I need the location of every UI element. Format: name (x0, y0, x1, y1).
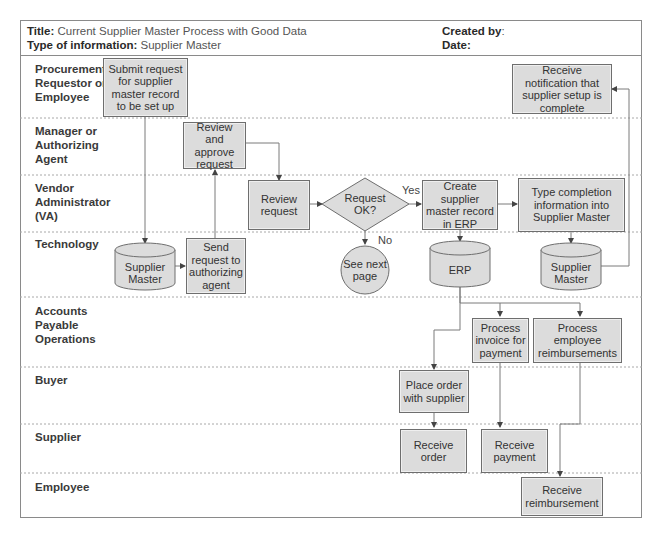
lane-technology: Technology (35, 237, 99, 251)
edge-label-yes: Yes (402, 184, 420, 196)
lane-vendor-admin: Vendor Administrator (VA) (35, 181, 110, 223)
node-send-request[interactable]: Send request to authorizing agent (186, 238, 246, 294)
node-review-request[interactable]: Review request (248, 180, 310, 230)
node-decision-request-ok[interactable]: Request OK? (335, 187, 395, 221)
node-review-approve[interactable]: Review and approve request (183, 122, 246, 169)
lane-employee: Employee (35, 480, 89, 494)
node-receive-payment[interactable]: Receive payment (481, 429, 548, 473)
edge-label-no: No (378, 234, 392, 246)
node-receive-notification[interactable]: Receive notification that supplier setup… (512, 64, 612, 114)
node-process-reimbursements[interactable]: Process employee reimbursements (533, 318, 622, 363)
lane-supplier: Supplier (35, 430, 81, 444)
node-place-order[interactable]: Place order with supplier (399, 370, 469, 413)
lane-procurement: Procurement Requestor or Employee (35, 62, 107, 104)
node-db-erp[interactable]: ERP (432, 257, 488, 283)
node-process-invoice[interactable]: Process invoice for payment (472, 318, 529, 363)
node-receive-order[interactable]: Receive order (400, 429, 467, 473)
node-receive-reimbursement[interactable]: Receive reimbursement (521, 477, 603, 516)
node-db-supplier-master-2[interactable]: Supplier Master (543, 258, 599, 288)
node-db-supplier-master-1[interactable]: Supplier Master (117, 258, 173, 288)
lane-accounts-payable: Accounts Payable Operations (35, 304, 96, 346)
node-submit-request[interactable]: Submit request for supplier master recor… (103, 58, 188, 117)
lane-manager: Manager or Authorizing Agent (35, 124, 99, 166)
lane-dividers (20, 118, 642, 473)
lane-buyer: Buyer (35, 373, 68, 387)
node-type-completion[interactable]: Type completion information into Supplie… (518, 178, 625, 232)
node-see-next-page[interactable]: See next page (343, 248, 387, 292)
node-create-record[interactable]: Create supplier master record in ERP (422, 180, 498, 230)
